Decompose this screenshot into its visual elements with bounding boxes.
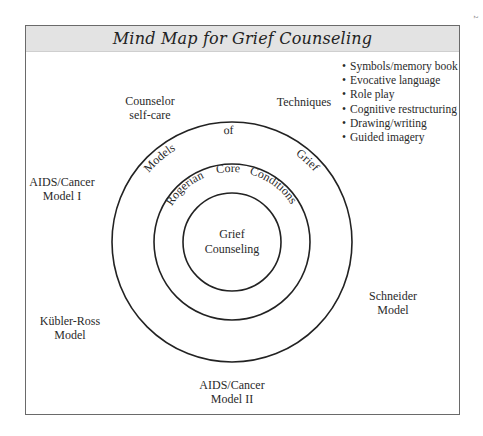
node-line: Schneider: [355, 289, 431, 303]
outer-ring-label: of: [223, 123, 233, 137]
technique-item: Role play: [342, 87, 458, 101]
node-line: Kübler-Ross: [30, 314, 110, 328]
node-line: AIDS/Cancer: [190, 378, 274, 392]
node-schneider-model: Schneider Model: [355, 289, 431, 317]
node-line: AIDS/Cancer: [22, 175, 102, 189]
node-line: Model I: [22, 189, 102, 203]
core-text: Core: [215, 161, 241, 177]
center-line-1: Grief: [219, 227, 244, 241]
technique-item: Guided imagery: [342, 130, 458, 144]
node-line: Model: [30, 328, 110, 342]
node-aids-cancer-model-1: AIDS/Cancer Model I: [22, 175, 102, 203]
technique-item: Cognitive restructuring: [342, 102, 458, 116]
technique-item: Drawing/writing: [342, 116, 458, 130]
technique-item: Evocative language: [342, 73, 458, 87]
of-text: of: [223, 123, 233, 137]
node-aids-cancer-model-2: AIDS/Cancer Model II: [190, 378, 274, 406]
techniques-list: Symbols/memory book Evocative language R…: [342, 59, 458, 144]
node-line: Techniques: [268, 95, 340, 109]
middle-ring-label: Rogerian: [163, 168, 206, 208]
node-line: Counselor: [110, 94, 190, 108]
node-counselor-self-care: Counselor self-care: [110, 94, 190, 122]
middle-ring-label: Core: [215, 161, 241, 177]
technique-item: Symbols/memory book: [342, 59, 458, 73]
node-line: Model: [355, 303, 431, 317]
node-line: Model II: [190, 392, 274, 406]
center-line-2: Counseling: [205, 242, 260, 256]
node-kubler-ross-model: Kübler-Ross Model: [30, 314, 110, 342]
node-techniques: Techniques: [268, 95, 340, 109]
node-line: self-care: [110, 108, 190, 122]
rogerian-text: Rogerian: [163, 168, 206, 208]
